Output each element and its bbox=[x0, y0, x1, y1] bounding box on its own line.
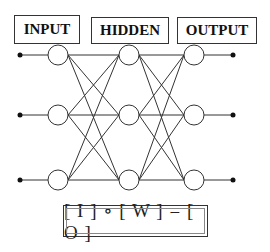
equation-box: [ I ] ∘ [ W ] = [ O ] bbox=[63, 205, 208, 237]
nodes bbox=[48, 45, 204, 190]
output-layer-label: OUTPUT bbox=[177, 17, 257, 44]
input-layer-label: INPUT bbox=[14, 15, 80, 44]
equation-text: [ I ] ∘ [ W ] = [ O ] bbox=[64, 199, 207, 244]
hidden-layer-label: HIDDEN bbox=[91, 17, 169, 44]
